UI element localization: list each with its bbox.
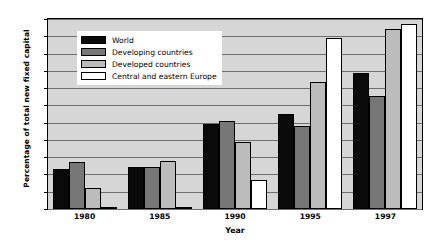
bar	[251, 180, 267, 209]
y-axis-tick-mark	[44, 36, 47, 37]
bar	[160, 161, 176, 209]
bar	[310, 82, 326, 209]
y-axis-tick-mark	[44, 174, 47, 175]
legend-swatch-world	[81, 36, 106, 44]
bar	[128, 167, 144, 209]
bar	[401, 24, 417, 209]
legend-swatch-developed-countries	[81, 60, 106, 68]
y-axis-tick-mark	[44, 123, 47, 124]
bar-group	[272, 19, 347, 209]
y-axis-tick-mark	[44, 140, 47, 141]
legend-label-central-and-eastern-europe: Central and eastern Europe	[112, 72, 217, 81]
legend-label-developing-countries: Developing countries	[112, 48, 193, 57]
bar	[294, 126, 310, 209]
legend-swatch-central-and-eastern-europe	[81, 72, 106, 80]
legend-item-developing-countries: Developing countries	[81, 46, 217, 58]
x-axis-title: Year	[47, 226, 423, 235]
bar	[53, 169, 69, 209]
y-axis-tick-mark	[44, 105, 47, 106]
legend-swatch-developing-countries	[81, 48, 106, 56]
legend-item-developed-countries: Developed countries	[81, 58, 217, 70]
x-axis-tick-label: 1985	[122, 212, 197, 221]
gridline	[48, 209, 422, 210]
legend: World Developing countries Developed cou…	[77, 31, 222, 85]
bar-chart: Percentage of total new fixed capital 01…	[0, 0, 431, 251]
x-axis-tick-label: 1997	[348, 212, 423, 221]
bar	[85, 188, 101, 209]
bar	[278, 114, 294, 209]
bar	[203, 124, 219, 209]
bar-group	[347, 19, 422, 209]
bar	[69, 162, 85, 210]
y-axis-tick-mark	[44, 209, 47, 210]
x-axis-tick-labels: 19801985199019951997	[47, 212, 423, 221]
bar	[219, 121, 235, 209]
bar	[326, 38, 342, 209]
legend-item-world: World	[81, 34, 217, 46]
x-axis-tick-label: 1980	[47, 212, 122, 221]
legend-label-developed-countries: Developed countries	[112, 60, 190, 69]
y-axis-tick-mark	[44, 157, 47, 158]
bar	[385, 29, 401, 209]
bar	[353, 73, 369, 209]
bar	[144, 167, 160, 209]
x-axis-tick-label: 1995	[273, 212, 348, 221]
bar	[101, 207, 117, 209]
y-axis-tick-mark	[44, 88, 47, 89]
y-axis-tick-mark	[44, 192, 47, 193]
y-axis-tick-mark	[44, 71, 47, 72]
bar	[369, 96, 385, 209]
bar	[176, 207, 192, 209]
y-axis-title: Percentage of total new fixed capital	[22, 14, 31, 204]
y-axis-tick-mark	[44, 54, 47, 55]
x-axis-tick-label: 1990	[197, 212, 272, 221]
y-axis-tick-mark	[44, 19, 47, 20]
bar	[235, 142, 251, 209]
legend-item-central-and-eastern-europe: Central and eastern Europe	[81, 70, 217, 82]
legend-label-world: World	[112, 36, 134, 45]
